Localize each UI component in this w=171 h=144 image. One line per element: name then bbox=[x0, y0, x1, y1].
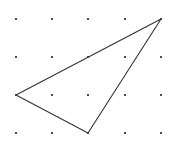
grid-dot bbox=[124, 18, 126, 20]
dot-grid-diagram bbox=[0, 0, 171, 144]
grid-dot bbox=[124, 56, 126, 58]
grid-dot bbox=[15, 56, 17, 58]
grid-dot bbox=[51, 132, 53, 134]
grid-dot bbox=[15, 132, 17, 134]
grid-dot bbox=[160, 132, 162, 134]
grid-dot bbox=[124, 94, 126, 96]
grid-dot bbox=[160, 94, 162, 96]
grid-dot bbox=[87, 94, 89, 96]
grid-dot bbox=[51, 56, 53, 58]
grid-dot bbox=[124, 132, 126, 134]
grid-dots bbox=[15, 18, 162, 134]
grid-dot bbox=[15, 18, 17, 20]
grid-dot bbox=[51, 94, 53, 96]
grid-dot bbox=[51, 18, 53, 20]
grid-dot bbox=[160, 56, 162, 58]
triangle-shape bbox=[16, 19, 161, 133]
grid-dot bbox=[87, 18, 89, 20]
